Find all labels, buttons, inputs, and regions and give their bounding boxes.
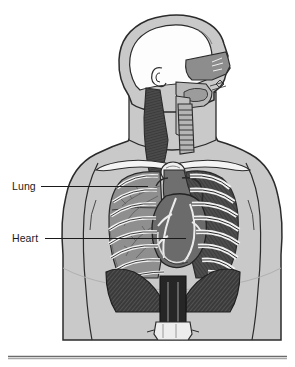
label-heart-text: Heart	[12, 232, 38, 244]
bottom-rule	[8, 357, 287, 359]
anatomy-figure: Lung Heart	[0, 0, 295, 367]
esophagus	[160, 276, 186, 324]
trachea	[178, 104, 194, 154]
label-lung-text: Lung	[12, 180, 36, 192]
